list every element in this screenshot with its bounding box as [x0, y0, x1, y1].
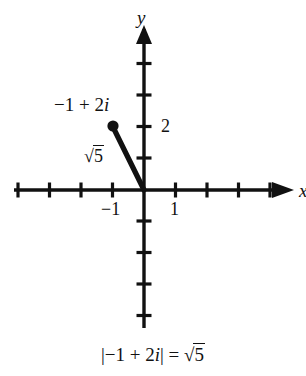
point-label-real-part: −1 + 2: [54, 94, 104, 115]
coordinate-plane-graphic: [0, 0, 306, 376]
plotted-point-marker: [107, 120, 118, 131]
radicand-value: 5: [93, 145, 104, 166]
x-tick-label-1: 1: [170, 200, 179, 218]
point-label: −1 + 2i: [54, 95, 109, 114]
figure-caption: |−1 + 2i| = √5: [0, 345, 306, 364]
segment-length-label: √5: [84, 147, 104, 165]
caption-radicand-value: 5: [193, 343, 205, 365]
x-axis-arrowhead: [272, 182, 294, 198]
complex-plane-figure: y x 2 −1 1 −1 + 2i √5 |−1 + 2i| = √5: [0, 0, 306, 376]
y-axis-label: y: [137, 8, 145, 27]
x-axis-label: x: [299, 181, 306, 200]
radical-group: √5: [84, 147, 104, 165]
point-label-imaginary-unit: i: [104, 94, 109, 115]
caption-abs-close: | =: [160, 344, 184, 365]
caption-radical-group: √5: [184, 345, 205, 364]
x-tick-label-neg1: −1: [101, 200, 120, 218]
caption-abs-open: |−1 + 2: [101, 344, 155, 365]
y-tick-label-2: 2: [161, 117, 170, 135]
